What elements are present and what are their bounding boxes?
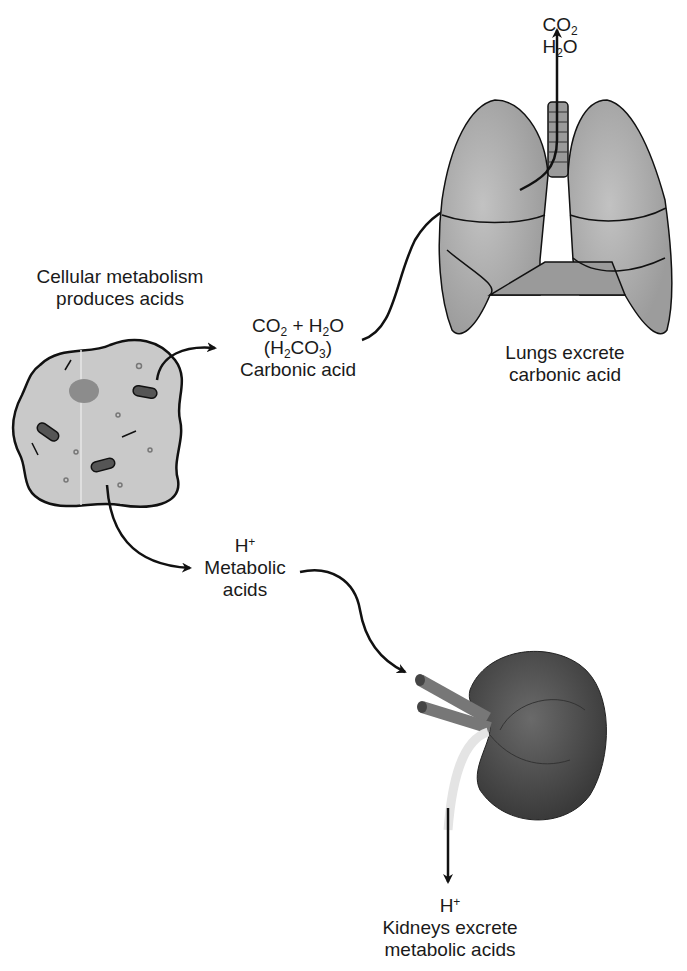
lungs-label-line1: Lungs excrete [490, 342, 640, 364]
kidney-plus: + [453, 895, 460, 909]
kidney-label: H+ Kidneys excrete metabolic acids [370, 895, 530, 961]
cell-icon [13, 340, 182, 507]
co2-text: CO [542, 14, 571, 35]
diagram-artwork [0, 0, 687, 971]
h2co3-open: (H [264, 337, 284, 358]
lungs-label: Lungs excrete carbonic acid [490, 342, 640, 386]
metabolic-acids-label: H+ Metabolic acids [190, 535, 300, 601]
h2co3-mid: CO [291, 337, 320, 358]
arrow-metabolic-to-kidney [300, 570, 405, 672]
kidney-line3: metabolic acids [370, 939, 530, 961]
h2o-sub: 2 [556, 46, 563, 60]
cell-label-line2: produces acids [20, 288, 220, 310]
cell-label-line1: Cellular metabolism [20, 266, 220, 288]
lungs-icon [439, 100, 672, 334]
metabolic-h: H [235, 535, 249, 556]
kidney-line2: Kidneys excrete [370, 917, 530, 939]
metabolic-line2: Metabolic [190, 557, 300, 579]
kidney-h: H [440, 895, 454, 916]
h2co3-close: ) [326, 337, 332, 358]
carbonic-acid-label: CO2 + H2O (H2CO3) Carbonic acid [228, 315, 368, 381]
lungs-label-line2: carbonic acid [490, 364, 640, 386]
h2o-h: H [542, 36, 556, 57]
kidney-icon [415, 651, 606, 830]
carbonic-h2o-end: O [329, 315, 344, 336]
carbonic-co2: CO [252, 315, 281, 336]
metabolic-line3: acids [190, 579, 300, 601]
exhaled-gases-label: CO2 H2O [525, 14, 595, 58]
carbonic-plus: + H [287, 315, 322, 336]
metabolic-plus: + [248, 535, 255, 549]
carbonic-acid-name: Carbonic acid [228, 359, 368, 381]
cell-label: Cellular metabolism produces acids [20, 266, 220, 310]
h2o-o: O [563, 36, 578, 57]
